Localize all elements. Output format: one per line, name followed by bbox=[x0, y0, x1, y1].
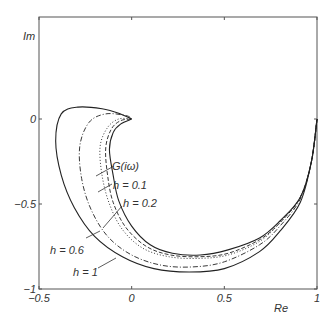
x-tick-label: 0.5 bbox=[217, 292, 233, 304]
label-h01: h = 0.1 bbox=[113, 179, 147, 191]
nyquist-chart: −0.500.51−1−0.50 Im Re G(iω) h = 0.1 h =… bbox=[0, 0, 333, 328]
y-tick-label: −1 bbox=[23, 283, 36, 295]
leader-h1 bbox=[98, 258, 116, 268]
leader-h02 bbox=[103, 206, 122, 228]
y-tick-label: 0 bbox=[30, 113, 37, 125]
label-g: G(iω) bbox=[112, 160, 139, 172]
annotations: G(iω) h = 0.1 h = 0.2 h = 0.6 h = 1 bbox=[50, 160, 157, 278]
y-tick-label: −0.5 bbox=[14, 198, 37, 210]
label-h06: h = 0.6 bbox=[50, 244, 85, 256]
y-axis-label: Im bbox=[23, 30, 35, 42]
leader-h06 bbox=[86, 231, 100, 238]
axis-ticks: −0.500.51−1−0.50 bbox=[14, 17, 320, 304]
label-h02: h = 0.2 bbox=[123, 197, 157, 209]
x-tick-label: 0 bbox=[129, 292, 136, 304]
x-tick-label: 1 bbox=[314, 292, 320, 304]
x-axis-label: Re bbox=[274, 302, 288, 314]
label-h1: h = 1 bbox=[73, 266, 98, 278]
curve-h-1 bbox=[56, 107, 317, 272]
nyquist-curves bbox=[56, 107, 317, 272]
